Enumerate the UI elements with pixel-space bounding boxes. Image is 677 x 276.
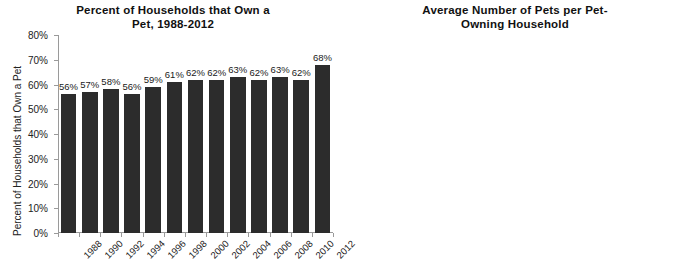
x-axis-category-label: 1992 (123, 238, 146, 261)
x-axis-category-label: 2008 (292, 238, 315, 261)
chart-title-right-line2: Owning Household (370, 17, 660, 31)
chart-panel-avg-pets: Average Number of Pets per Pet- Owning H… (340, 0, 677, 276)
bar-value-label: 62% (249, 67, 268, 78)
y-axis-tick: 70% (54, 60, 58, 61)
y-axis-tick-label: 50% (28, 104, 48, 115)
y-axis-tick-label: 0% (34, 228, 48, 239)
x-axis-tick (143, 233, 144, 237)
bar (82, 92, 98, 233)
bar (230, 77, 246, 233)
x-axis-tick (291, 233, 292, 237)
chart-title-left-line2: Pet, 1988-2012 (28, 17, 318, 31)
bar (145, 87, 161, 233)
bar-value-label: 63% (271, 64, 290, 75)
bar-value-label: 62% (186, 67, 205, 78)
bar-value-label: 56% (59, 81, 78, 92)
x-axis-tick (185, 233, 186, 237)
x-axis-tick (164, 233, 165, 237)
x-axis-tick (100, 233, 101, 237)
two-chart-figure: Percent of Households that Own a Pet, 19… (0, 0, 677, 276)
bar-value-label: 61% (165, 69, 184, 80)
y-axis-tick: 60% (54, 85, 58, 86)
chart-title-left-line1: Percent of Households that Own a (28, 3, 318, 17)
bar (293, 80, 309, 233)
y-axis-tick: 50% (54, 109, 58, 110)
bar-value-label: 56% (123, 81, 142, 92)
y-axis-tick-label: 70% (28, 54, 48, 65)
y-axis-tick-label: 60% (28, 79, 48, 90)
y-axis-tick-label: 20% (28, 178, 48, 189)
bar (167, 82, 183, 233)
bar (251, 80, 267, 233)
x-axis-category-label: 2000 (208, 238, 231, 261)
bar (61, 94, 77, 233)
x-axis-category-label: 2004 (250, 238, 273, 261)
bar-value-label: 62% (207, 67, 226, 78)
y-axis-tick-label: 40% (28, 129, 48, 140)
x-axis-tick (58, 233, 59, 237)
bar (272, 77, 288, 233)
x-axis-category-label: 2006 (271, 238, 294, 261)
chart-panel-household-pet-ownership: Percent of Households that Own a Pet, 19… (0, 0, 340, 276)
x-axis-category-label: 2002 (229, 238, 252, 261)
x-axis-category-label: 1990 (102, 238, 125, 261)
x-axis-tick (333, 233, 334, 237)
y-axis-tick: 40% (54, 134, 58, 135)
y-axis-tick-label: 10% (28, 203, 48, 214)
chart-title-left: Percent of Households that Own a Pet, 19… (28, 3, 318, 31)
chart-title-right: Average Number of Pets per Pet- Owning H… (370, 3, 660, 31)
bar-value-label: 57% (80, 79, 99, 90)
x-axis-tick (121, 233, 122, 237)
plot-area-left: 0%10%20%30%40%50%60%70%80%56%57%58%56%59… (58, 35, 333, 233)
x-axis-tick (206, 233, 207, 237)
y-axis-tick-label: 80% (28, 30, 48, 41)
y-axis-tick: 80% (54, 35, 58, 36)
x-axis-category-label: 1994 (144, 238, 167, 261)
x-axis-category-label: 2010 (313, 238, 336, 261)
y-axis-tick-label: 30% (28, 153, 48, 164)
bar-value-label: 68% (313, 52, 332, 63)
x-axis-category-label: 1996 (165, 238, 188, 261)
x-axis-tick (248, 233, 249, 237)
chart-title-right-line1: Average Number of Pets per Pet- (370, 3, 660, 17)
bar (209, 80, 225, 233)
x-axis-tick (79, 233, 80, 237)
bar-value-label: 59% (144, 74, 163, 85)
bar (315, 65, 331, 233)
y-axis-tick: 10% (54, 208, 58, 209)
x-axis-tick (312, 233, 313, 237)
x-axis-tick (227, 233, 228, 237)
bar-value-label: 62% (292, 67, 311, 78)
y-axis-tick: 20% (54, 184, 58, 185)
bar-value-label: 63% (228, 64, 247, 75)
bar (103, 89, 119, 233)
bar (124, 94, 140, 233)
bar-value-label: 58% (101, 76, 120, 87)
y-axis-tick: 30% (54, 159, 58, 160)
y-axis-label-left: Percent of Households that Own a Pet (12, 66, 23, 236)
x-axis-category-label: 1988 (81, 238, 104, 261)
y-axis-line-left (58, 35, 59, 233)
x-axis-category-label: 1998 (187, 238, 210, 261)
bar (188, 80, 204, 233)
x-axis-tick (270, 233, 271, 237)
